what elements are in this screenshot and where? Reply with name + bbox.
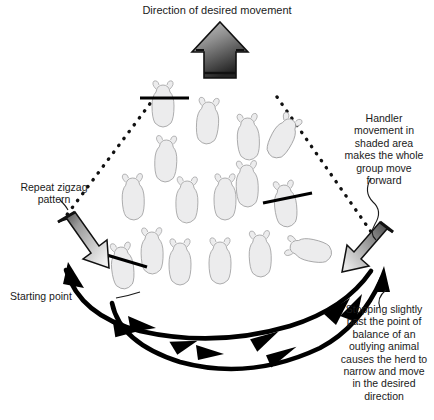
starting-point-annotation: Starting point <box>10 290 114 302</box>
animal <box>284 234 334 265</box>
page-title: Direction of desired movement <box>0 4 434 16</box>
animal <box>195 97 220 145</box>
animal <box>209 238 231 284</box>
animal <box>272 180 299 228</box>
animal <box>154 135 178 182</box>
direction-arrow-icon <box>192 22 248 78</box>
animal <box>109 242 136 290</box>
stopping-point-annotation: Stopping slightly past the point of bala… <box>334 303 434 402</box>
starting-point-leader-line <box>116 292 140 298</box>
handler-arrow-left-icon <box>58 212 109 268</box>
animal <box>121 173 145 220</box>
animal <box>236 113 260 160</box>
animal <box>235 160 259 207</box>
handler-arrow-right-icon <box>342 222 393 272</box>
animal <box>263 111 304 162</box>
animal <box>152 81 174 127</box>
animal <box>176 177 199 224</box>
animal <box>169 239 191 285</box>
handler-movement-annotation: Handler movement in shaded area makes th… <box>336 112 432 186</box>
herd-group <box>109 81 334 290</box>
animal <box>248 230 272 277</box>
repeat-zigzag-annotation: Repeat zigzag pattern <box>2 181 106 206</box>
diagram-canvas: Direction of desired movement Handler mo… <box>0 0 434 420</box>
animal <box>214 174 236 220</box>
